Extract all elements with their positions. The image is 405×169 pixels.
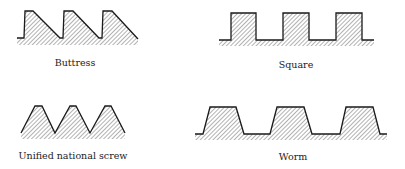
buttress-panel: Buttress <box>17 11 138 68</box>
unified-national-screw-label: Unified national screw <box>19 150 128 161</box>
thread-forms-diagram: Buttress Square Unified national screw W… <box>0 0 405 169</box>
square-hatch <box>219 13 374 46</box>
worm-hatch <box>195 107 387 140</box>
unified-national-screw-hatch <box>21 106 125 139</box>
buttress-label: Buttress <box>55 57 96 68</box>
worm-label: Worm <box>279 151 307 162</box>
worm-panel: Worm <box>195 107 387 162</box>
square-panel: Square <box>219 13 374 70</box>
square-label: Square <box>279 59 314 70</box>
unified-national-screw-panel: Unified national screw <box>19 106 128 161</box>
